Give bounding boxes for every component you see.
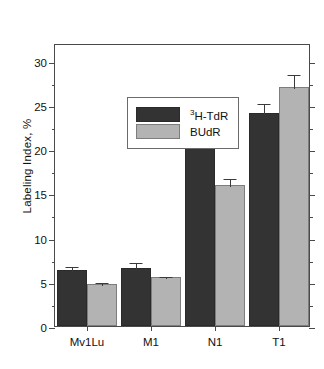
error-bar-T1-3h-tdr	[264, 104, 265, 115]
y-tick-0	[49, 328, 55, 329]
plot-inner: 051015202530Mv1LuM1N1T1	[55, 45, 309, 326]
error-bar-N1-budr	[230, 179, 231, 187]
legend-item-1: BUdR	[136, 124, 228, 139]
y-tick-20	[49, 151, 55, 152]
y-tick-label-15: 15	[34, 189, 47, 201]
error-bar-T1-budr	[294, 75, 295, 89]
x-tick-label-M1: M1	[143, 336, 159, 348]
x-tick-Mv1Lu	[87, 326, 88, 331]
y-tick-label-10: 10	[34, 234, 47, 246]
legend-swatch-3h-tdr	[136, 107, 180, 122]
y-tick-15	[49, 195, 55, 196]
y-minor-tick	[52, 85, 56, 86]
y-minor-tick	[309, 217, 313, 218]
y-tick-25	[309, 107, 315, 108]
y-tick-30	[309, 63, 315, 64]
legend-item-0: 3H-TdR	[136, 107, 228, 122]
bar-M1-3h-tdr	[121, 268, 151, 326]
bar-N1-3h-tdr	[185, 129, 215, 326]
y-tick-label-20: 20	[34, 145, 47, 157]
y-tick-5	[309, 284, 315, 285]
x-tick-label-N1: N1	[208, 336, 223, 348]
y-minor-tick	[52, 306, 56, 307]
legend-swatch-budr	[136, 124, 180, 139]
y-minor-tick	[52, 173, 56, 174]
y-minor-tick	[309, 129, 313, 130]
y-tick-10	[309, 240, 315, 241]
error-cap-M1-3h-tdr	[130, 263, 143, 264]
x-tick-M1	[151, 326, 152, 331]
legend-label-3h-tdr-text: H-TdR	[194, 109, 228, 121]
y-tick-15	[309, 195, 315, 196]
y-tick-label-30: 30	[34, 57, 47, 69]
y-tick-25	[49, 107, 55, 108]
y-axis-title: Labeling Index, %	[21, 76, 33, 256]
legend-label-3h-tdr: 3H-TdR	[190, 108, 228, 122]
y-minor-tick	[309, 306, 313, 307]
y-tick-20	[309, 151, 315, 152]
y-tick-0	[309, 328, 315, 329]
y-minor-tick	[309, 173, 313, 174]
error-cap-M1-budr	[160, 277, 173, 278]
x-tick-label-T1: T1	[272, 336, 285, 348]
y-minor-tick	[52, 129, 56, 130]
legend: 3H-TdR BUdR	[127, 97, 239, 149]
y-minor-tick	[52, 262, 56, 263]
y-minor-tick	[309, 262, 313, 263]
y-tick-5	[49, 284, 55, 285]
error-cap-T1-3h-tdr	[258, 104, 271, 105]
bar-Mv1Lu-3h-tdr	[57, 270, 87, 326]
bar-T1-3h-tdr	[249, 113, 279, 326]
y-tick-label-5: 5	[41, 278, 47, 290]
y-minor-tick	[52, 217, 56, 218]
bar-M1-budr	[151, 277, 181, 326]
x-tick-N1	[215, 326, 216, 331]
x-tick-T1	[279, 326, 280, 331]
bar-T1-budr	[279, 87, 309, 326]
error-cap-N1-budr	[224, 179, 237, 180]
error-cap-Mv1Lu-3h-tdr	[66, 267, 79, 268]
y-tick-label-0: 0	[41, 322, 47, 334]
y-tick-10	[49, 240, 55, 241]
bar-N1-budr	[215, 185, 245, 326]
y-tick-30	[49, 63, 55, 64]
error-bar-M1-3h-tdr	[136, 263, 137, 270]
legend-label-budr: BUdR	[190, 126, 221, 138]
x-tick-label-Mv1Lu: Mv1Lu	[70, 336, 105, 348]
bar-Mv1Lu-budr	[87, 284, 117, 326]
error-cap-T1-budr	[288, 75, 301, 76]
error-cap-Mv1Lu-budr	[96, 283, 109, 284]
bar-chart-figure: Labeling Index, % 051015202530Mv1LuM1N1T…	[0, 0, 324, 369]
y-tick-label-25: 25	[34, 101, 47, 113]
plot-area: 051015202530Mv1LuM1N1T1 3H-TdR BUdR	[54, 44, 310, 327]
y-minor-tick	[309, 85, 313, 86]
